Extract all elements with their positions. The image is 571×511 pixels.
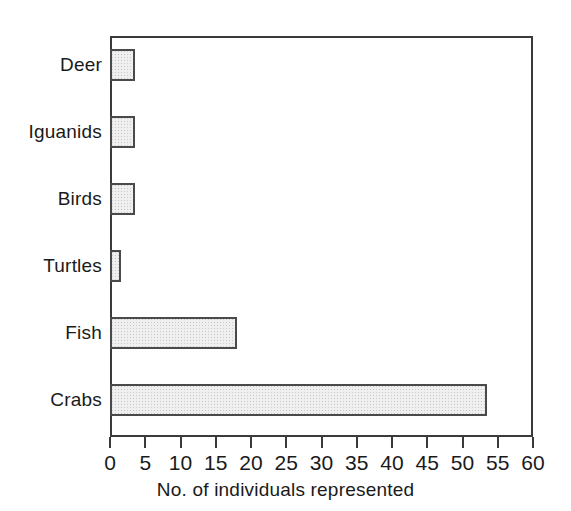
- x-tick-10: [180, 437, 182, 448]
- x-tick-50: [462, 437, 464, 448]
- x-tick-5: [144, 437, 146, 448]
- x-tick-label-10: 10: [169, 451, 192, 475]
- x-tick-55: [497, 437, 499, 448]
- bar-iguanids: [110, 116, 135, 148]
- category-label-birds: Birds: [58, 188, 102, 210]
- x-tick-15: [215, 437, 217, 448]
- x-tick-label-20: 20: [239, 451, 262, 475]
- bar-birds: [110, 183, 135, 215]
- x-tick-label-40: 40: [380, 451, 403, 475]
- category-label-turtles: Turtles: [43, 255, 102, 277]
- x-axis-title: No. of individuals represented: [0, 479, 571, 501]
- x-tick-40: [391, 437, 393, 448]
- x-tick-label-0: 0: [104, 451, 116, 475]
- x-tick-label-15: 15: [204, 451, 227, 475]
- x-tick-label-5: 5: [139, 451, 151, 475]
- x-tick-35: [356, 437, 358, 448]
- x-tick-60: [532, 437, 534, 448]
- category-label-fish: Fish: [65, 322, 102, 344]
- x-tick-label-30: 30: [310, 451, 333, 475]
- x-tick-25: [285, 437, 287, 448]
- x-tick-label-25: 25: [275, 451, 298, 475]
- bar-fish: [110, 317, 237, 349]
- x-tick-label-50: 50: [451, 451, 474, 475]
- x-tick-45: [426, 437, 428, 448]
- category-axis-labels: DeerIguanidsBirdsTurtlesFishCrabs: [0, 36, 102, 437]
- x-tick-label-60: 60: [521, 451, 544, 475]
- bar-chart: DeerIguanidsBirdsTurtlesFishCrabs 051015…: [0, 0, 571, 511]
- bar-deer: [110, 49, 135, 81]
- bar-crabs: [110, 384, 487, 416]
- x-tick-20: [250, 437, 252, 448]
- category-label-iguanids: Iguanids: [29, 121, 102, 143]
- category-label-crabs: Crabs: [50, 389, 102, 411]
- x-tick-label-55: 55: [486, 451, 509, 475]
- x-tick-label-45: 45: [416, 451, 439, 475]
- bars-layer: [110, 36, 533, 437]
- x-tick-30: [321, 437, 323, 448]
- x-tick-0: [109, 437, 111, 448]
- bar-turtles: [110, 250, 121, 282]
- x-tick-label-35: 35: [345, 451, 368, 475]
- category-label-deer: Deer: [60, 54, 102, 76]
